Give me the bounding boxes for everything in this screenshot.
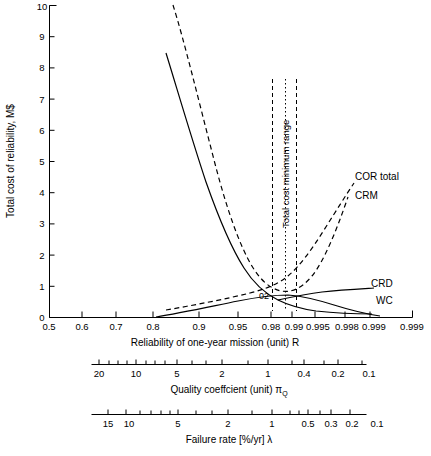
pq-tick-label: 10 (131, 368, 142, 379)
y-tick-label: 8 (39, 62, 44, 73)
lambda-tick-label: 15 (103, 418, 114, 429)
x-tick-label: 0.999 (362, 321, 386, 332)
x-tick-label: 0.8 (146, 321, 159, 332)
pq-axis-subscript: Q (282, 390, 288, 398)
y-axis-title: Total cost of reliability, M$ (5, 104, 16, 218)
curve-label-crd: CRD (371, 278, 393, 289)
x-tick-label: 0.5 (42, 321, 55, 332)
y-tick-label: 7 (39, 94, 44, 105)
y-tick-label: 6 (39, 125, 44, 136)
x-tick-label: 0.95 (229, 321, 248, 332)
y-tick-label: 5 (39, 156, 44, 167)
x-tick-label: 0.7 (109, 321, 122, 332)
lambda-axis-title: Failure rate [%/yr] λ (186, 434, 273, 445)
y-tick-label: 9 (39, 31, 44, 42)
lambda-axis-title-text: Failure rate [%/yr] (186, 434, 268, 445)
x-tick-label: 0.998 (335, 321, 359, 332)
lambda-tick-label: 0.5 (301, 418, 314, 429)
pq-tick-label: 1 (265, 368, 270, 379)
x-tick-label: 0.99 (285, 321, 304, 332)
lambda-tick-label: 10 (124, 418, 135, 429)
annotation-02: 02 (259, 291, 269, 301)
pq-tick-label: 2 (219, 368, 224, 379)
lambda-tick-label: 0.3 (324, 418, 337, 429)
x-tick-label: 0.995 (306, 321, 330, 332)
x-axis-title: Reliability of one-year mission (unit) R (131, 337, 299, 348)
y-tick-label: 3 (39, 218, 44, 229)
pq-tick-label: 20 (94, 368, 105, 379)
curve-label-cor-total: COR total (355, 171, 399, 182)
lambda-axis-symbol: λ (267, 434, 272, 445)
lambda-tick-label: 5 (175, 418, 180, 429)
pq-axis-title-text: Quality coeffcient (unit) (170, 384, 275, 395)
lambda-tick-label: 2 (225, 418, 230, 429)
y-tick-label: 2 (39, 250, 44, 261)
lambda-tick-label: 0.2 (345, 418, 358, 429)
x-tick-label: 0.999 (400, 321, 424, 332)
pq-tick-label: 0.4 (297, 368, 310, 379)
x-tick-label: 0.6 (75, 321, 88, 332)
pq-tick-label: 0.1 (362, 368, 375, 379)
curve-label-crm: CRM (355, 190, 378, 201)
x-tick-label: 0.98 (262, 321, 281, 332)
lambda-tick-label: 1 (269, 418, 274, 429)
reliability-cost-chart: 0 1 2 3 4 5 6 7 8 9 10 Total cost of rel… (0, 0, 431, 456)
y-tick-label: 10 (37, 1, 48, 12)
annotation-total-cost-minimum-range: Total cost minimum range (280, 120, 291, 228)
y-tick-label: 1 (39, 281, 44, 292)
lambda-tick-label: 0.1 (370, 418, 383, 429)
x-tick-label: 0.9 (192, 321, 205, 332)
y-tick-label: 4 (39, 187, 44, 198)
pq-tick-label: 0.2 (331, 368, 344, 379)
pq-tick-label: 5 (174, 368, 179, 379)
chart-svg: 0 1 2 3 4 5 6 7 8 9 10 Total cost of rel… (0, 0, 431, 456)
curve-label-wc: WC (376, 295, 393, 306)
